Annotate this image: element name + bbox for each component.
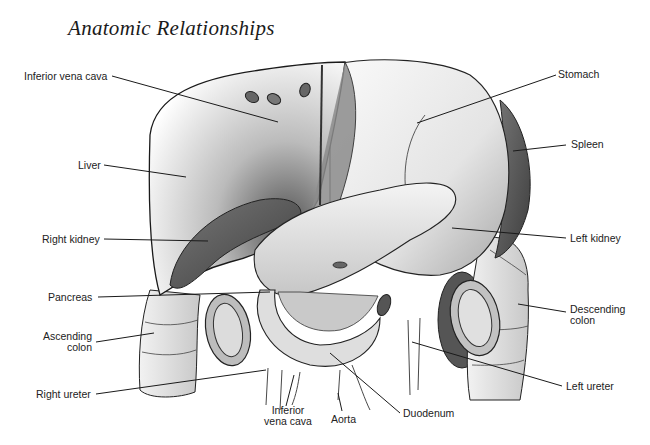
label-left-ureter: Left ureter <box>566 381 614 392</box>
label-duodenum: Duodenum <box>403 408 454 419</box>
label-ascending-colon: Ascending colon <box>40 331 92 353</box>
label-left-kidney: Left kidney <box>570 233 621 244</box>
label-pancreas: Pancreas <box>48 292 92 303</box>
label-inferior-vena-cava-bottom: Inferior vena cava <box>258 405 318 427</box>
label-liver: Liver <box>78 160 101 171</box>
anatomy-illustration <box>0 0 650 445</box>
label-aorta: Aorta <box>331 414 356 425</box>
label-right-kidney: Right kidney <box>42 234 100 245</box>
label-inferior-vena-cava-top: Inferior vena cava <box>24 71 107 82</box>
label-right-ureter: Right ureter <box>36 389 91 400</box>
label-stomach: Stomach <box>558 69 599 80</box>
label-descending-colon: Descending colon <box>570 304 625 326</box>
label-spleen: Spleen <box>571 139 604 150</box>
ascending-colon-shape <box>139 290 256 397</box>
